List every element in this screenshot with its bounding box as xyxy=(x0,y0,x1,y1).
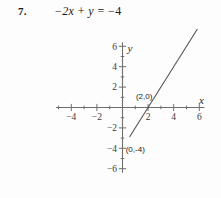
y-tick-label: 6 xyxy=(112,42,117,52)
y-tick-label: 4 xyxy=(112,62,117,72)
x-tick-label: 2 xyxy=(146,112,151,122)
worksheet-problem: 7. −2x + y = −4 −4−2246642−2−4−6 xy (2,0… xyxy=(0,0,221,198)
y-tick-label: −4 xyxy=(107,144,117,154)
y-axis-label: y xyxy=(127,42,133,54)
y-tick-label: 2 xyxy=(112,82,117,92)
x-axis-label: x xyxy=(198,94,204,106)
line-segment xyxy=(130,29,198,137)
x-tick-label: −4 xyxy=(66,112,76,122)
x-tick-label: −2 xyxy=(92,112,102,122)
point-annotations: (2,0)(0,-4) xyxy=(126,92,153,154)
point-label: (0,-4) xyxy=(126,145,145,154)
x-tick-label: 4 xyxy=(171,112,176,122)
y-tick-label: −6 xyxy=(107,164,117,174)
y-tick-label: −2 xyxy=(107,123,117,133)
plotted-line xyxy=(130,29,198,137)
coordinate-plane-graph: −4−2246642−2−4−6 xy (2,0)(0,-4) xyxy=(0,0,221,198)
point-label: (2,0) xyxy=(136,92,153,101)
x-tick-label: 6 xyxy=(197,112,202,122)
